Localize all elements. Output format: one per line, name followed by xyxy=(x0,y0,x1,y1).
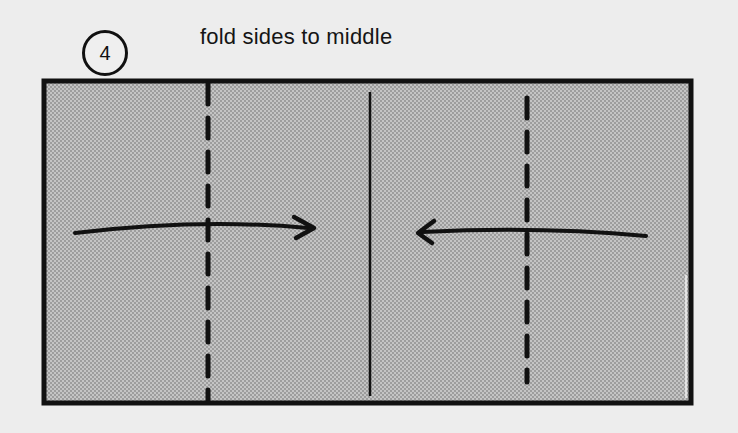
fold-diagram xyxy=(0,0,738,433)
paper-sheet xyxy=(44,81,691,403)
